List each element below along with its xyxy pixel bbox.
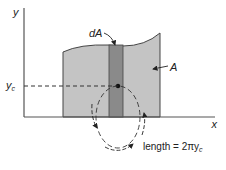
yc-label: yc <box>5 79 16 92</box>
length-formula: length = 2πyc <box>143 141 203 153</box>
dA-label: dA <box>89 27 102 39</box>
x-axis-label: x <box>210 118 217 130</box>
y-axis-label: y <box>12 6 20 18</box>
centroid-revolution-diagram: y x dA A yc length = 2πyc <box>0 0 226 170</box>
A-label: A <box>169 61 177 73</box>
dA-leader-line <box>104 33 115 45</box>
differential-strip <box>109 45 123 117</box>
